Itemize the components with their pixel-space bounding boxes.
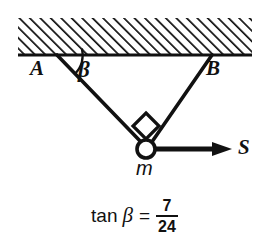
ceiling-hatching	[18, 18, 252, 55]
equation-variable: β	[123, 205, 133, 226]
cable-a	[57, 55, 142, 143]
angle-label-beta: β	[78, 58, 90, 81]
force-label-s: S	[238, 137, 250, 158]
mass-knot-circle	[137, 140, 155, 158]
arrowhead-icon	[212, 142, 232, 156]
anchor-label-a: A	[30, 58, 44, 79]
fraction-denominator: 24	[156, 218, 178, 235]
mass-label-m: m	[136, 158, 153, 178]
fraction-bar	[156, 215, 178, 217]
equation-equals: =	[138, 206, 151, 225]
cable-b	[152, 55, 213, 143]
equation-function: tan	[91, 206, 117, 225]
equation-tan-beta: tan β = 7 24	[0, 196, 269, 235]
force-vector-s	[152, 142, 232, 156]
physics-diagram-figure: A B β m S tan β = 7 24	[0, 0, 269, 245]
equation-row: tan β = 7 24	[91, 196, 178, 235]
anchor-label-b: B	[206, 58, 220, 79]
equation-fraction: 7 24	[156, 197, 178, 236]
fraction-numerator: 7	[161, 197, 174, 214]
